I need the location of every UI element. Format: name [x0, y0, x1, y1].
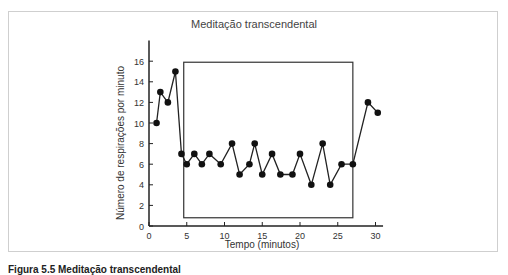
data-point: [319, 140, 326, 147]
data-point: [338, 161, 345, 168]
data-point: [365, 99, 372, 106]
data-point: [199, 161, 206, 168]
axes: 0246810121416051015202530: [134, 41, 383, 241]
meditation-period-rectangle: [184, 62, 353, 218]
data-point: [251, 140, 258, 147]
x-tick-label: 30: [370, 231, 380, 241]
data-point: [229, 140, 236, 147]
data-point: [206, 151, 213, 158]
figure-caption: Figura 5.5 Meditação transcendental: [8, 264, 181, 275]
data-point: [157, 89, 164, 96]
data-point: [297, 151, 304, 158]
y-tick-label: 14: [134, 77, 144, 87]
data-point: [259, 171, 266, 178]
data-point: [236, 171, 243, 178]
x-tick-label: 0: [146, 231, 151, 241]
meditation-period-box: [184, 62, 353, 218]
data-point: [269, 151, 276, 158]
data-point: [165, 99, 172, 106]
y-tick-label: 12: [134, 98, 144, 108]
data-series: [153, 68, 381, 188]
y-tick-label: 0: [139, 222, 144, 232]
data-point: [246, 161, 253, 168]
data-point: [289, 171, 296, 178]
data-point: [374, 109, 381, 116]
y-axis-label: Número de respirações por minuto: [115, 66, 126, 220]
y-tick-label: 4: [139, 180, 144, 190]
x-axis-label: Tempo (minutos): [225, 239, 299, 250]
data-point: [277, 171, 284, 178]
data-point: [191, 151, 198, 158]
data-point: [153, 120, 160, 127]
data-point: [178, 151, 185, 158]
data-point: [350, 161, 357, 168]
y-tick-label: 8: [139, 139, 144, 149]
x-tick-label: 25: [333, 231, 343, 241]
y-tick-label: 2: [139, 201, 144, 211]
x-tick-label: 5: [184, 231, 189, 241]
data-point: [172, 68, 179, 75]
y-tick-label: 16: [134, 57, 144, 67]
data-point: [217, 161, 224, 168]
data-point: [327, 182, 334, 189]
y-tick-label: 10: [134, 119, 144, 129]
data-point: [308, 182, 315, 189]
series-line: [157, 72, 378, 185]
data-point: [183, 161, 190, 168]
y-tick-label: 6: [139, 160, 144, 170]
